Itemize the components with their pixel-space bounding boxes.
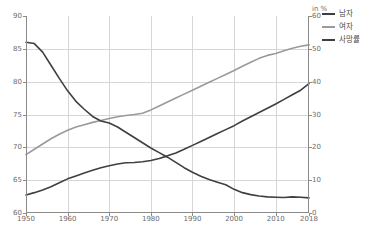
chart-legend: 남자 여자 사망률	[322, 8, 384, 47]
tick-label-y-left: 65	[13, 177, 22, 184]
series-line-사망률	[26, 42, 309, 198]
tick-mark-y-left	[23, 115, 26, 116]
legend-item-male[interactable]: 남자	[322, 8, 384, 19]
y-axis-left-line	[26, 16, 27, 213]
tick-label-x: 2000	[225, 216, 243, 223]
tick-label-x: 1970	[100, 216, 118, 223]
chart-container: in % 60657075808590 0102030405060 195019…	[0, 0, 386, 251]
legend-item-female[interactable]: 여자	[322, 21, 384, 32]
tick-mark-y-right	[309, 49, 312, 50]
tick-label-y-right: 50	[312, 45, 321, 52]
legend-swatch-female	[322, 26, 335, 28]
tick-label-x: 2018	[300, 216, 318, 223]
series-layer	[26, 16, 309, 213]
tick-label-y-right: 40	[312, 78, 321, 85]
x-axis-labels: 19501960197019801990200020102018	[26, 216, 309, 228]
tick-label-y-right: 10	[312, 177, 321, 184]
tick-mark-y-right	[309, 16, 312, 17]
tick-label-x: 1950	[17, 216, 35, 223]
legend-label-mortality: 사망률	[339, 36, 360, 44]
legend-swatch-mortality	[322, 39, 335, 41]
legend-item-mortality[interactable]: 사망률	[322, 34, 384, 45]
tick-label-y-right: 20	[312, 144, 321, 151]
tick-mark-y-right	[309, 180, 312, 181]
tick-mark-y-right	[309, 115, 312, 116]
tick-label-x: 1960	[59, 216, 77, 223]
tick-label-y-left: 70	[13, 144, 22, 151]
series-paths	[26, 42, 309, 198]
tick-mark-y-left	[23, 180, 26, 181]
plot-area	[26, 16, 309, 213]
tick-mark-y-left	[23, 16, 26, 17]
series-line-여자	[26, 45, 309, 155]
legend-swatch-male	[322, 13, 335, 15]
tick-mark-y-right	[309, 147, 312, 148]
tick-label-y-left: 85	[13, 45, 22, 52]
series-line-남자	[26, 84, 309, 195]
tick-label-y-left: 75	[13, 111, 22, 118]
tick-mark-y-left	[23, 147, 26, 148]
tick-label-x: 1980	[142, 216, 160, 223]
legend-label-male: 남자	[339, 10, 353, 18]
tick-mark-y-left	[23, 49, 26, 50]
tick-label-x: 2010	[267, 216, 285, 223]
tick-label-y-right: 30	[312, 111, 321, 118]
tick-label-x: 1990	[184, 216, 202, 223]
tick-mark-y-left	[23, 82, 26, 83]
tick-mark-y-right	[309, 82, 312, 83]
tick-label-y-left: 80	[13, 78, 22, 85]
tick-label-y-right: 60	[312, 13, 321, 20]
tick-label-y-left: 90	[13, 13, 22, 20]
legend-label-female: 여자	[339, 23, 353, 31]
y-axis-left-labels: 60657075808590	[0, 16, 22, 213]
